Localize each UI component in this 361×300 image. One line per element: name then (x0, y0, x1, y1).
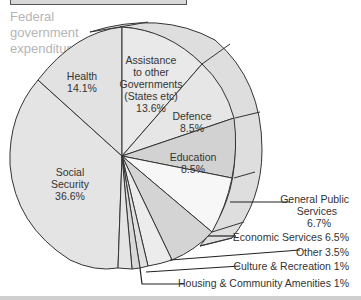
label-other: Other 3.5% (296, 246, 349, 258)
svg-text:Education: Education (170, 151, 217, 163)
label-culture: Culture & Recreation 1% (233, 260, 349, 272)
svg-text:Assistance: Assistance (126, 54, 177, 66)
svg-text:Social: Social (56, 166, 85, 178)
svg-text:General Public: General Public (280, 193, 349, 205)
label-health: Health 14.1% (67, 70, 98, 94)
svg-text:36.6%: 36.6% (55, 190, 85, 202)
svg-text:Defence: Defence (172, 110, 211, 122)
label-housing: Housing & Community Amenities 1% (178, 277, 349, 289)
label-social-security: Social Security 36.6% (51, 166, 90, 202)
svg-text:8.5%: 8.5% (181, 163, 205, 175)
svg-text:Services: Services (297, 205, 337, 217)
svg-text:8.5%: 8.5% (180, 122, 204, 134)
label-economic: Economic Services 6.5% (233, 231, 349, 243)
svg-text:6.7%: 6.7% (307, 217, 331, 229)
label-general-public: General Public Services 6.7% (280, 193, 349, 229)
svg-text:(States etc): (States etc) (124, 90, 178, 102)
svg-text:Governments: Governments (119, 78, 182, 90)
svg-text:14.1%: 14.1% (67, 82, 97, 94)
svg-text:Health: Health (67, 70, 98, 82)
svg-text:13.6%: 13.6% (136, 102, 166, 114)
svg-text:to other: to other (133, 66, 169, 78)
bottom-divider (0, 296, 361, 300)
pie-chart: Social Security 36.6% Health 14.1% Assis… (0, 0, 361, 300)
leader-culture (146, 266, 240, 272)
svg-text:Security: Security (51, 178, 90, 190)
